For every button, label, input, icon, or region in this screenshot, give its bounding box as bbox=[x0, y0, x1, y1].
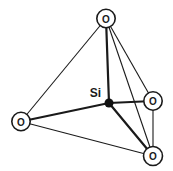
sio4-tetrahedron-diagram: OOOOSi bbox=[0, 0, 173, 171]
oxygen-atom-label-o-left: O bbox=[17, 117, 25, 128]
oxygen-atom-label-o-right: O bbox=[149, 96, 157, 107]
oxygen-atom-label-o-bottom: O bbox=[149, 151, 157, 162]
silicon-atom-dot bbox=[105, 99, 114, 108]
oxygen-atom-label-o-top: O bbox=[102, 14, 110, 25]
tetrahedron-svg: OOOOSi bbox=[0, 0, 173, 171]
si-o-bond-o-top bbox=[106, 19, 109, 104]
silicon-atom-label: Si bbox=[90, 86, 101, 100]
tetrahedron-edge-o-left-o-bottom bbox=[21, 122, 153, 157]
tetrahedron-edge-o-top-o-bottom bbox=[106, 19, 153, 157]
si-o-bond-o-bottom bbox=[109, 103, 153, 156]
